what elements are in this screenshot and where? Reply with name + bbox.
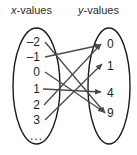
- range-value: 1: [107, 60, 119, 72]
- domain-ellipsis: ...: [30, 130, 43, 142]
- mapping-diagram: x-values y-values –2–10123... 0149: [0, 0, 137, 155]
- domain-value: 1: [18, 83, 40, 95]
- range-value: 4: [107, 87, 119, 99]
- domain-value: –1: [18, 51, 40, 63]
- domain-value: 0: [18, 66, 40, 78]
- range-value: 0: [107, 38, 119, 50]
- domain-value: 3: [18, 114, 40, 126]
- domain-value: 2: [18, 99, 40, 111]
- range-value: 9: [107, 107, 119, 119]
- mapping-arrows: [43, 42, 105, 120]
- mapping-arrow: [44, 44, 101, 105]
- mapping-arrow: [43, 89, 101, 92]
- domain-value: –2: [18, 36, 40, 48]
